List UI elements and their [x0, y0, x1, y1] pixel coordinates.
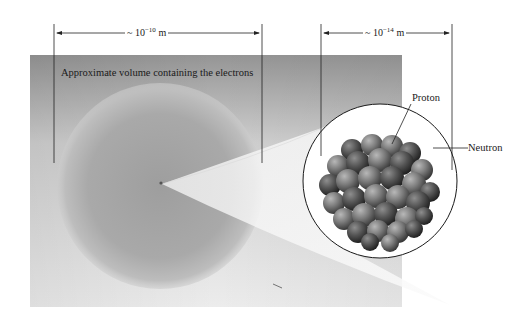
nucleus-size-exponent: −14: [383, 26, 394, 34]
neutron-label: Neutron: [468, 143, 502, 154]
nucleus-size-base: ~ 10: [365, 27, 383, 38]
atom-size-unit: m: [156, 27, 166, 38]
electron-volume-caption: Approximate volume containing the electr…: [61, 68, 253, 79]
proton-label: Proton: [412, 93, 440, 104]
nucleus-dot: [159, 181, 162, 184]
nucleus-size-label: ~ 10−14 m: [363, 27, 406, 38]
nucleus-size-unit: m: [394, 27, 404, 38]
nucleus-magnified: [303, 104, 457, 258]
atom-size-exponent: −10: [145, 26, 156, 34]
atom-size-base: ~ 10: [127, 27, 145, 38]
atom-size-label: ~ 10−10 m: [125, 27, 168, 38]
atom-diagram: [0, 0, 529, 321]
